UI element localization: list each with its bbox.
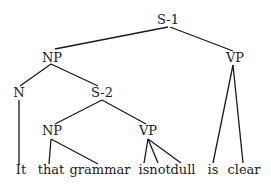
leaf-w8: clear <box>227 162 261 177</box>
tree-edges <box>19 27 243 164</box>
tree-edge-s1-np1 <box>55 27 168 49</box>
leaf-w6: dull <box>170 162 195 177</box>
leaf-w1: It <box>16 162 27 177</box>
node-n: N <box>13 85 24 100</box>
leaf-w4: is <box>139 162 150 177</box>
tree-leaves: Itthatgrammarisnotdullisclear <box>16 162 262 177</box>
tree-edge-np1-n <box>20 64 51 86</box>
node-np2: NP <box>42 123 62 138</box>
tree-edge-np2-w3 <box>51 139 98 164</box>
tree-edge-s2-np2 <box>55 100 102 124</box>
node-vp1: VP <box>225 50 244 65</box>
tree-edge-s1-vp1 <box>170 27 233 51</box>
tree-edge-np1-s2 <box>51 64 98 86</box>
node-vp2: VP <box>138 123 157 138</box>
leaf-w3: grammar <box>70 162 132 177</box>
tree-edge-vp1-w8 <box>233 65 243 163</box>
tree-edge-vp1-w7 <box>213 65 233 163</box>
leaf-w5: not <box>149 162 171 177</box>
tree-edge-np2-w2 <box>49 139 51 164</box>
node-s2: S-2 <box>91 85 113 100</box>
leaf-w7: is <box>208 162 219 177</box>
node-s1: S-1 <box>157 12 179 27</box>
syntax-tree-diagram: S-1NPVPNS-2NPVP Itthatgrammarisnotdullis… <box>0 0 271 184</box>
tree-edge-s2-vp2 <box>102 100 146 124</box>
tree-nodes: S-1NPVPNS-2NPVP <box>13 12 244 138</box>
tree-edge-vp2-w4 <box>144 139 148 163</box>
leaf-w2: that <box>38 162 65 177</box>
node-np1: NP <box>42 50 62 65</box>
